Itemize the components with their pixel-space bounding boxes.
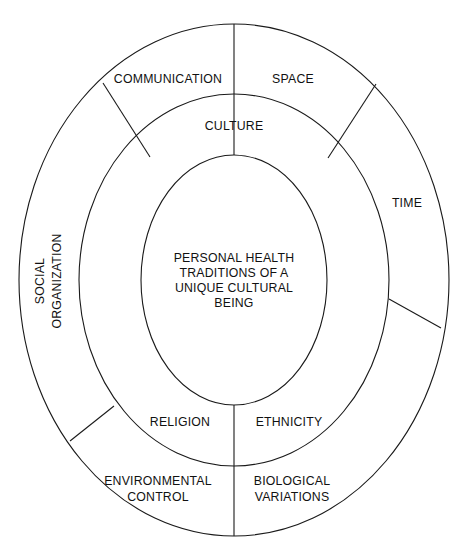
label-culture: CULTURE [205, 119, 264, 133]
center-label-line-1: PERSONAL HEALTH [174, 251, 295, 265]
label-ethnicity: ETHNICITY [256, 415, 323, 429]
label-time: TIME [392, 196, 422, 210]
concentric-ellipse-diagram: COMMUNICATION SPACE TIME ENVIRONMENTAL C… [0, 0, 468, 553]
label-organization: ORGANIZATION [50, 233, 64, 328]
label-environmental-control-line2: CONTROL [127, 490, 189, 504]
label-biological-variations-line2: VARIATIONS [255, 490, 330, 504]
divider-lower-right-radial [389, 299, 441, 328]
center-label-line-2: TRADITIONS OF A [180, 266, 289, 280]
label-social: SOCIAL [33, 258, 47, 304]
diagram-canvas: COMMUNICATION SPACE TIME ENVIRONMENTAL C… [0, 0, 468, 553]
center-label-line-4: BEING [214, 296, 253, 310]
center-label-line-3: UNIQUE CULTURAL [175, 281, 293, 295]
label-biological-variations-line1: BIOLOGICAL [254, 474, 331, 488]
label-communication: COMMUNICATION [114, 72, 222, 86]
divider-lower-left-radial [70, 406, 114, 441]
label-space: SPACE [272, 72, 314, 86]
inner-core-ellipse [141, 155, 327, 405]
label-environmental-control-line1: ENVIRONMENTAL [104, 474, 212, 488]
divider-upper-right-radial [328, 84, 376, 158]
label-religion: RELIGION [150, 415, 210, 429]
